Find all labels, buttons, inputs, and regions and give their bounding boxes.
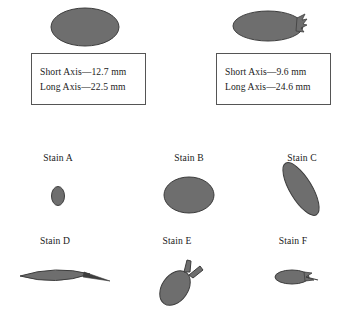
stain-a-shape bbox=[52, 187, 65, 206]
bloodstain-figure: Short Axis—12.7 mm Long Axis—22.5 mm Sho… bbox=[0, 0, 339, 314]
left-long-axis-text: Long Axis—22.5 mm bbox=[40, 79, 126, 94]
stain-label-d: Stain D bbox=[30, 235, 80, 247]
measurement-box-right: Short Axis—9.6 mm Long Axis—24.6 mm bbox=[216, 53, 331, 105]
stain-label-c: Stain C bbox=[277, 152, 327, 164]
stain-d-shape bbox=[20, 270, 110, 281]
measurement-box-left: Short Axis—12.7 mm Long Axis—22.5 mm bbox=[31, 53, 146, 105]
reference-stain-left-shape bbox=[51, 8, 119, 46]
stain-f-shape bbox=[275, 270, 318, 284]
stain-c-shape bbox=[276, 158, 326, 221]
stain-e-shape bbox=[153, 260, 203, 311]
stain-b-shape bbox=[164, 177, 214, 213]
left-short-axis-text: Short Axis—12.7 mm bbox=[40, 64, 126, 79]
reference-stain-right-shape bbox=[233, 11, 307, 41]
stain-label-a: Stain A bbox=[33, 152, 83, 164]
stain-label-f: Stain F bbox=[268, 235, 318, 247]
right-long-axis-text: Long Axis—24.6 mm bbox=[225, 79, 311, 94]
stain-label-e: Stain E bbox=[152, 235, 202, 247]
right-short-axis-text: Short Axis—9.6 mm bbox=[225, 64, 306, 79]
stain-label-b: Stain B bbox=[164, 152, 214, 164]
